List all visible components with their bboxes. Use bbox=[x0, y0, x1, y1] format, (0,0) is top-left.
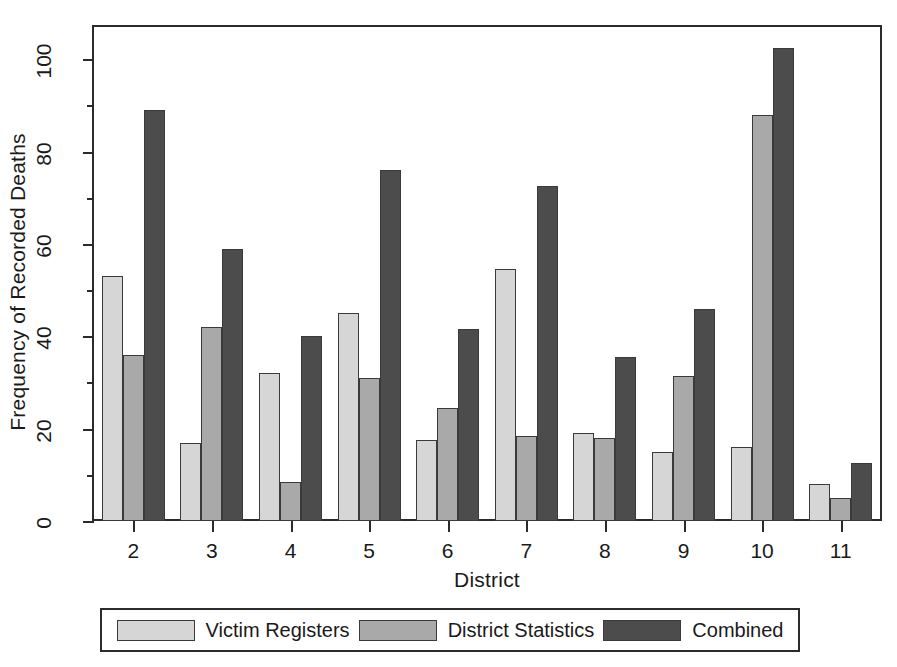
bar bbox=[516, 436, 537, 521]
x-axis-tick bbox=[291, 521, 293, 532]
bar bbox=[594, 438, 615, 521]
y-axis-tick: 0 bbox=[83, 521, 94, 523]
bar bbox=[437, 408, 458, 521]
bar bbox=[102, 276, 123, 521]
legend-entry: Victim Registers bbox=[117, 619, 350, 642]
bar bbox=[495, 269, 516, 521]
bar bbox=[573, 433, 594, 521]
y-axis-tick-label: 20 bbox=[31, 408, 57, 454]
bar bbox=[259, 373, 280, 521]
bar bbox=[301, 336, 322, 521]
x-axis-tick bbox=[841, 521, 843, 532]
x-axis-tick-label: 5 bbox=[339, 539, 399, 563]
bar bbox=[809, 484, 830, 521]
bar bbox=[338, 313, 359, 521]
x-axis-tick bbox=[526, 521, 528, 532]
bar bbox=[673, 376, 694, 521]
y-axis-minor-tick bbox=[87, 290, 94, 292]
x-axis-tick bbox=[762, 521, 764, 532]
bar bbox=[652, 452, 673, 521]
bar bbox=[222, 249, 243, 521]
y-axis-tick-label: 0 bbox=[31, 500, 57, 546]
x-axis-title: District bbox=[92, 568, 882, 592]
x-axis-tick-label: 7 bbox=[496, 539, 556, 563]
bar bbox=[144, 110, 165, 521]
y-axis-tick-label: 60 bbox=[31, 223, 57, 269]
y-axis-tick: 20 bbox=[83, 429, 94, 431]
legend-swatch bbox=[359, 620, 437, 641]
x-axis-tick bbox=[369, 521, 371, 532]
bar-chart-figure: Frequency of Recorded Deaths 02040608010… bbox=[0, 0, 897, 667]
y-axis-tick: 80 bbox=[83, 152, 94, 154]
bar bbox=[280, 482, 301, 521]
bar bbox=[458, 329, 479, 521]
legend-label: Victim Registers bbox=[206, 619, 350, 642]
y-axis-minor-tick bbox=[87, 105, 94, 107]
bar bbox=[851, 463, 872, 521]
x-axis-tick-label: 2 bbox=[103, 539, 163, 563]
x-axis-tick-label: 6 bbox=[418, 539, 478, 563]
x-axis-tick bbox=[684, 521, 686, 532]
x-axis-tick-label: 9 bbox=[654, 539, 714, 563]
bar bbox=[773, 48, 794, 521]
y-axis-minor-tick bbox=[87, 198, 94, 200]
bar bbox=[359, 378, 380, 521]
x-axis-tick-label: 11 bbox=[811, 539, 871, 563]
y-axis-tick: 100 bbox=[83, 59, 94, 61]
x-axis-tick-label: 10 bbox=[732, 539, 792, 563]
legend-label: District Statistics bbox=[448, 619, 595, 642]
bar bbox=[694, 309, 715, 521]
y-axis-minor-tick bbox=[87, 382, 94, 384]
bar bbox=[180, 443, 201, 521]
x-axis-tick bbox=[605, 521, 607, 532]
y-axis-tick: 60 bbox=[83, 244, 94, 246]
y-axis-minor-tick bbox=[87, 475, 94, 477]
y-axis-tick-label: 100 bbox=[31, 38, 57, 84]
x-axis-tick bbox=[133, 521, 135, 532]
x-axis-tick-label: 3 bbox=[182, 539, 242, 563]
bar bbox=[752, 115, 773, 521]
bar bbox=[123, 355, 144, 521]
legend-swatch bbox=[603, 620, 681, 641]
y-axis-title: Frequency of Recorded Deaths bbox=[1, 10, 35, 555]
y-axis-tick-label: 80 bbox=[31, 131, 57, 177]
legend-label: Combined bbox=[692, 619, 783, 642]
legend-swatch bbox=[117, 620, 195, 641]
y-axis-tick-label: 40 bbox=[31, 315, 57, 361]
bar bbox=[416, 440, 437, 521]
x-axis-tick-label: 8 bbox=[575, 539, 635, 563]
x-axis-tick-label: 4 bbox=[261, 539, 321, 563]
plot-area: 020406080100234567891011 bbox=[94, 27, 880, 521]
legend-entry: Combined bbox=[603, 619, 783, 642]
x-axis-tick bbox=[448, 521, 450, 532]
bar bbox=[380, 170, 401, 521]
legend-entry: District Statistics bbox=[359, 619, 595, 642]
chart-legend: Victim RegistersDistrict StatisticsCombi… bbox=[100, 608, 800, 652]
bar bbox=[615, 357, 636, 521]
y-axis-tick: 40 bbox=[83, 336, 94, 338]
bar bbox=[201, 327, 222, 521]
bar bbox=[537, 186, 558, 521]
bar bbox=[830, 498, 851, 521]
bar bbox=[731, 447, 752, 521]
x-axis-tick bbox=[212, 521, 214, 532]
